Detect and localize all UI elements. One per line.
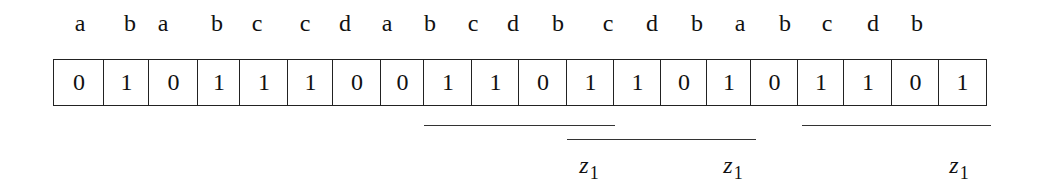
bit-cell: 0 — [148, 59, 198, 106]
bit-cell: 0 — [53, 59, 104, 106]
segment-1-line — [424, 125, 615, 126]
symbol-label: b — [779, 8, 791, 38]
bit-cell: 1 — [938, 59, 987, 106]
segment-1-label: z1 — [579, 152, 598, 180]
symbol-label: d — [339, 8, 351, 38]
bit-sequence-diagram: ababccdabcdbcdbabcdb 0101110011011010110… — [0, 0, 1038, 195]
symbol-label: a — [75, 8, 86, 38]
bit-cell: 1 — [613, 59, 661, 106]
symbol-label: b — [552, 8, 564, 38]
bit-cell: 0 — [518, 59, 567, 106]
segment-2-line — [567, 139, 756, 140]
label-subscript: 1 — [960, 163, 969, 183]
symbol-label: b — [911, 8, 923, 38]
symbol-label: c — [468, 8, 479, 38]
bit-cell: 0 — [660, 59, 707, 106]
symbol-label: c — [252, 8, 263, 38]
bit-cell: 1 — [797, 59, 844, 106]
segment-3-label: z1 — [949, 152, 968, 180]
symbol-label: a — [382, 8, 393, 38]
symbol-label: a — [735, 8, 746, 38]
segment-2-label: z1 — [723, 152, 742, 180]
label-subscript: 1 — [590, 163, 599, 183]
bit-cell: 1 — [471, 59, 519, 106]
bit-cell: 1 — [197, 59, 240, 106]
bit-cell: 1 — [239, 59, 288, 106]
bit-cell: 1 — [287, 59, 333, 106]
symbol-label: b — [424, 8, 436, 38]
symbol-label: c — [603, 8, 614, 38]
symbol-label: d — [646, 8, 658, 38]
label-subscript: 1 — [734, 163, 743, 183]
bit-cell: 0 — [750, 59, 798, 106]
bit-cell: 1 — [706, 59, 751, 106]
label-variable: z — [579, 152, 588, 178]
symbol-label: b — [211, 8, 223, 38]
symbol-label: d — [867, 8, 879, 38]
label-variable: z — [949, 152, 958, 178]
symbol-label: b — [691, 8, 703, 38]
bit-cell: 1 — [103, 59, 149, 106]
symbol-label: b — [124, 8, 136, 38]
bit-cell: 0 — [332, 59, 381, 106]
segment-3-line — [802, 125, 991, 126]
symbol-label: c — [300, 8, 311, 38]
bit-cell: 1 — [423, 59, 472, 106]
symbol-label: a — [158, 8, 169, 38]
bit-cell: 0 — [891, 59, 939, 106]
bit-cell: 1 — [843, 59, 892, 106]
symbol-label: d — [507, 8, 519, 38]
symbol-label: c — [822, 8, 833, 38]
label-variable: z — [723, 152, 732, 178]
bit-cell: 1 — [566, 59, 614, 106]
bit-cell: 0 — [380, 59, 424, 106]
